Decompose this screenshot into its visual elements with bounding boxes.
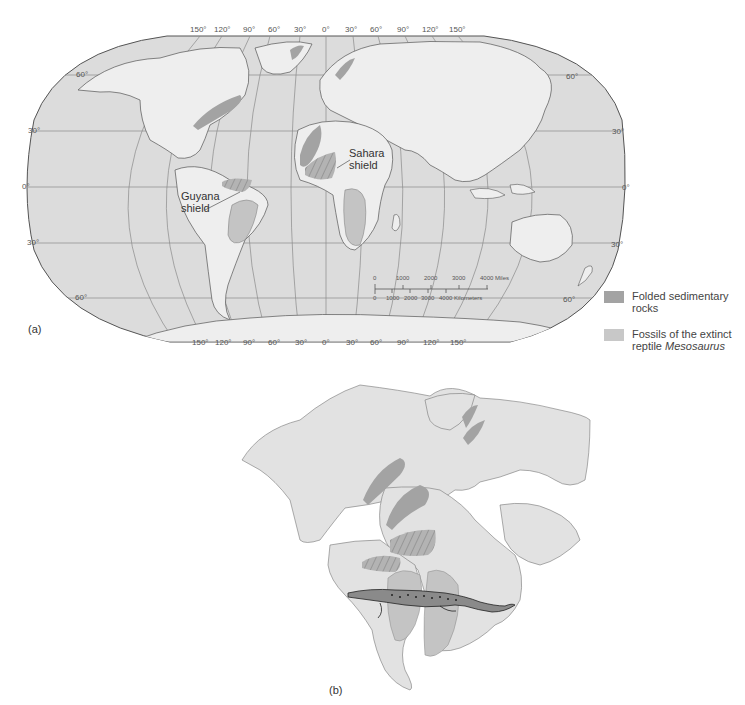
legend-item-folded-rocks: Folded sedimentary rocks	[604, 290, 729, 314]
sahara-shield-label: Sahara shield	[349, 147, 384, 171]
lon-label-top: 90°	[397, 25, 409, 34]
lon-label-bottom: 60°	[370, 338, 382, 347]
lon-label-top: 0°	[322, 25, 330, 34]
lon-label-top: 60°	[268, 25, 280, 34]
lon-label-bottom: 60°	[268, 338, 280, 347]
legend-label: Folded sedimentary rocks	[632, 290, 729, 314]
lat-label-right: 0°	[622, 183, 630, 192]
lat-label-left: 30°	[27, 238, 39, 247]
lat-label-left: 0°	[22, 182, 30, 191]
lat-label-right: 60°	[563, 295, 575, 304]
guyana-shield-label: Guyana shield	[181, 190, 220, 214]
world-map-graphic	[0, 0, 745, 705]
lon-label-bottom: 0°	[322, 338, 330, 347]
lat-label-right: 30°	[612, 127, 624, 136]
panel-label-a: (a)	[28, 323, 41, 335]
legend-label: Fossils of the extinct reptile Mesosauru…	[632, 328, 732, 352]
lat-label-left: 30°	[28, 126, 40, 135]
lat-label-right: 60°	[566, 72, 578, 81]
lat-label-left: 60°	[76, 70, 88, 79]
lon-label-top: 120°	[214, 25, 231, 34]
lon-label-bottom: 120°	[423, 338, 440, 347]
lon-label-top: 60°	[370, 25, 382, 34]
lon-label-top: 30°	[294, 25, 306, 34]
lon-label-bottom: 30°	[295, 338, 307, 347]
lon-label-top: 120°	[422, 25, 439, 34]
lon-label-top: 30°	[345, 25, 357, 34]
lon-label-bottom: 150°	[450, 338, 467, 347]
lon-label-top: 90°	[243, 25, 255, 34]
lat-label-left: 60°	[75, 293, 87, 302]
fossil-africa	[344, 189, 366, 246]
legend-swatch	[604, 291, 624, 303]
legend-item-mesosaurus-fossils: Fossils of the extinct reptile Mesosauru…	[604, 328, 732, 352]
lon-label-top: 150°	[190, 25, 207, 34]
lon-label-bottom: 120°	[215, 338, 232, 347]
panel-label-b: (b)	[329, 684, 342, 696]
pangaea-map	[242, 385, 590, 690]
lon-label-bottom: 30°	[346, 338, 358, 347]
lat-label-right: 30°	[611, 240, 623, 249]
lon-label-bottom: 150°	[192, 338, 209, 347]
lon-label-top: 150°	[449, 25, 466, 34]
legend-swatch	[604, 329, 624, 341]
lon-label-bottom: 90°	[243, 338, 255, 347]
lon-label-bottom: 90°	[397, 338, 409, 347]
